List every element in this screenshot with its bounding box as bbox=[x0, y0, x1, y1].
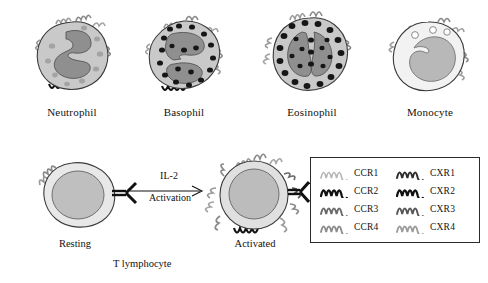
cell-label-eosinophil: Eosinophil bbox=[254, 106, 370, 118]
legend-item-ccr4: CCR4 bbox=[320, 221, 396, 234]
receptor-legend: CCR1 CXR1 CCR2 CXR2 bbox=[310, 157, 480, 243]
legend-label-ccr4: CCR4 bbox=[354, 222, 379, 232]
legend-label-cxr4: CXR4 bbox=[430, 222, 455, 232]
cell-label-neutrophil: Neutrophil bbox=[12, 106, 132, 118]
cell-label-basophil: Basophil bbox=[124, 106, 244, 118]
legend-item-cxr4: CXR4 bbox=[396, 221, 472, 234]
squiggle-icon bbox=[396, 167, 426, 180]
legend-item-ccr1: CCR1 bbox=[320, 167, 396, 180]
activated-nucleus bbox=[229, 169, 279, 219]
legend-label-cxr3: CXR3 bbox=[430, 204, 455, 214]
lymphocyte-resting-label: Resting bbox=[30, 238, 120, 249]
arrow-label-il2: IL-2 bbox=[130, 170, 208, 181]
activated-tcr bbox=[288, 182, 309, 202]
lymphocyte-resting bbox=[28, 155, 138, 237]
legend-label-ccr3: CCR3 bbox=[354, 204, 379, 214]
squiggle-icon bbox=[320, 185, 350, 198]
cell-basophil bbox=[134, 6, 234, 102]
legend-item-cxr3: CXR3 bbox=[396, 203, 472, 216]
cell-neutrophil bbox=[22, 6, 122, 102]
legend-label-ccr1: CCR1 bbox=[354, 168, 379, 178]
lymphocyte-caption: T lymphocyte bbox=[113, 258, 171, 269]
cell-eosinophil bbox=[258, 4, 362, 104]
squiggle-icon bbox=[396, 185, 426, 198]
lymphocyte-activated bbox=[204, 150, 310, 242]
legend-item-cxr1: CXR1 bbox=[396, 167, 472, 180]
squiggle-icon bbox=[320, 203, 350, 216]
squiggle-icon bbox=[320, 221, 350, 234]
cell-monocyte bbox=[378, 8, 480, 102]
legend-label-cxr1: CXR1 bbox=[430, 168, 455, 178]
squiggle-icon bbox=[396, 221, 426, 234]
cell-label-monocyte: Monocyte bbox=[372, 106, 488, 118]
squiggle-icon bbox=[396, 203, 426, 216]
legend-item-ccr2: CCR2 bbox=[320, 185, 396, 198]
arrow-label-activation: Activation bbox=[124, 192, 216, 203]
legend-item-cxr2: CXR2 bbox=[396, 185, 472, 198]
legend-label-ccr2: CCR2 bbox=[354, 186, 379, 196]
lymphocyte-activated-label: Activated bbox=[210, 238, 300, 249]
resting-nucleus bbox=[52, 171, 104, 219]
legend-label-cxr2: CXR2 bbox=[430, 186, 455, 196]
figure-canvas: Neutrophil bbox=[0, 0, 488, 283]
squiggle-icon bbox=[320, 167, 350, 180]
legend-item-ccr3: CCR3 bbox=[320, 203, 396, 216]
